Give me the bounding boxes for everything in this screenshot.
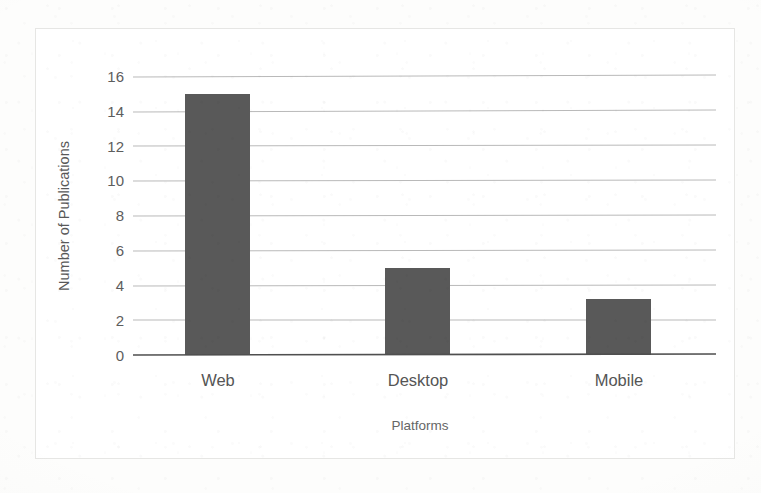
y-tick-label-10: 10 <box>107 172 124 189</box>
x-category-label-desktop: Desktop <box>388 371 449 389</box>
bars-group <box>185 94 651 355</box>
y-tick-label-2: 2 <box>116 312 124 329</box>
y-tick-label-8: 8 <box>116 207 124 224</box>
y-tick-labels: 16 14 12 10 8 6 4 2 0 <box>107 68 124 364</box>
bar-web[interactable] <box>185 94 250 355</box>
chart-canvas: 16 14 12 10 8 6 4 2 0 Web Desktop Mobile… <box>0 0 761 493</box>
bar-desktop[interactable] <box>385 268 450 355</box>
gridline-16 <box>133 75 716 77</box>
y-tick-label-14: 14 <box>107 103 124 120</box>
y-tick-label-16: 16 <box>107 68 124 85</box>
y-tick-label-12: 12 <box>107 138 124 155</box>
x-axis-baseline <box>133 354 716 355</box>
x-category-labels: Web Desktop Mobile <box>201 371 643 389</box>
bar-mobile[interactable] <box>586 299 651 355</box>
y-tick-label-6: 6 <box>116 242 124 259</box>
y-axis-title: Number of Publications <box>56 141 72 291</box>
bar-chart: 16 14 12 10 8 6 4 2 0 Web Desktop Mobile… <box>0 0 761 493</box>
x-axis-title: Platforms <box>391 418 448 433</box>
y-tick-label-4: 4 <box>116 277 124 294</box>
y-tick-label-0: 0 <box>116 347 124 364</box>
x-category-label-mobile: Mobile <box>595 371 644 389</box>
x-category-label-web: Web <box>201 371 235 389</box>
